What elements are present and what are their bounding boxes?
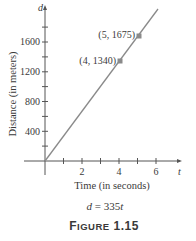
point-label: (4, 1340) — [79, 55, 116, 67]
x-tick-label: 4 — [117, 166, 122, 177]
equation: d = 335t — [0, 200, 196, 212]
y-tick-label: 800 — [25, 96, 40, 107]
x-variable-label: t — [178, 166, 181, 177]
y-variable-label: d — [38, 2, 44, 13]
equation-lhs: d — [87, 200, 93, 212]
point-label: (5, 1675) — [98, 29, 135, 41]
figure-caption: FIGURE 1.15 — [0, 219, 196, 233]
x-axis-arrow-icon — [177, 159, 182, 163]
x-tick-label: 2 — [80, 166, 85, 177]
caption-rest: IGURE — [77, 221, 110, 232]
y-axis-title: Distance (in meters) — [7, 51, 19, 137]
caption-initial: F — [69, 219, 77, 233]
x-axis-title: Time (in seconds) — [74, 180, 150, 192]
y-tick-label: 400 — [25, 126, 40, 137]
y-axis-arrow-icon — [43, 5, 47, 10]
x-tick-label: 6 — [154, 166, 159, 177]
equation-rhs: = 335 — [95, 200, 120, 212]
data-point-5-1675 — [137, 34, 142, 39]
data-point-4-1340 — [118, 59, 123, 64]
y-tick-label: 1200 — [20, 66, 40, 77]
equation-var: t — [120, 200, 123, 212]
caption-number: 1.15 — [113, 219, 138, 233]
y-tick-label: 1600 — [20, 36, 40, 47]
